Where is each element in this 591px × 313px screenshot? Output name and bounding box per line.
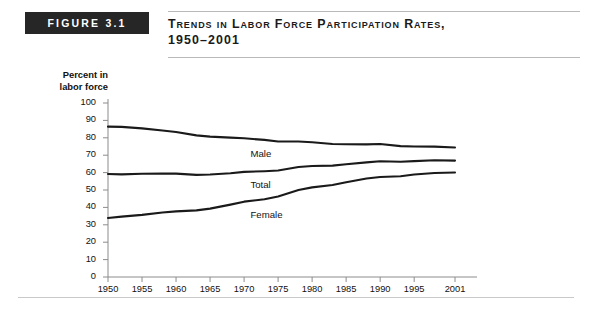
page-bottom-rule bbox=[18, 297, 574, 298]
line-chart-canvas bbox=[0, 0, 591, 313]
chart-series-lines bbox=[108, 127, 455, 218]
chart-axes bbox=[103, 99, 477, 282]
figure-page: FIGURE 3.1 Trends in Labor Force Partici… bbox=[0, 0, 591, 313]
